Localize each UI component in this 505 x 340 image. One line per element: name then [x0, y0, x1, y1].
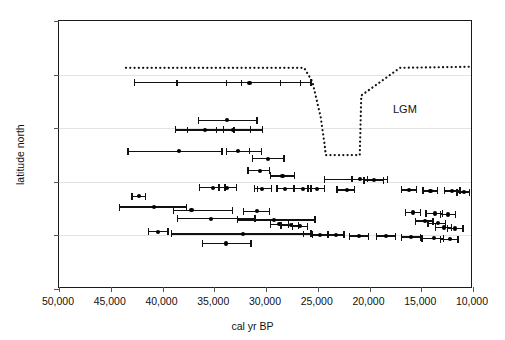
x-tick-mark: [59, 287, 60, 292]
x-axis-title: cal yr BP: [0, 320, 505, 332]
plot-frame: LGM: [58, 20, 472, 288]
x-tick-mark: [111, 287, 112, 292]
lgm-boundary-polyline: [126, 67, 470, 155]
y-tick-mark: [54, 75, 59, 76]
x-tick-mark: [266, 287, 267, 292]
lgm-boundary-curve: [59, 21, 471, 287]
x-tick-mark: [163, 287, 164, 292]
chart-figure: latitude north 303540455055 50,00045,000…: [0, 0, 505, 340]
x-tick-mark: [421, 287, 422, 292]
x-tick-mark: [370, 287, 371, 292]
x-tick-mark: [473, 287, 474, 292]
y-tick-mark: [54, 128, 59, 129]
lgm-annotation-label: LGM: [393, 103, 417, 115]
x-tick-label: 10,000: [437, 296, 505, 307]
y-tick-mark: [54, 182, 59, 183]
y-tick-mark: [54, 21, 59, 22]
y-axis-title: latitude north: [14, 124, 26, 185]
x-tick-mark: [318, 287, 319, 292]
x-tick-mark: [214, 287, 215, 292]
y-tick-mark: [54, 235, 59, 236]
plot-area: LGM: [59, 21, 471, 287]
